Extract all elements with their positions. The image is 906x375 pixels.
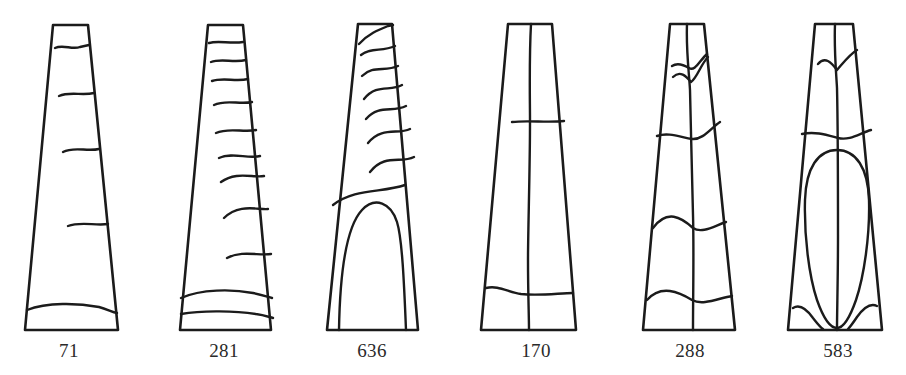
artifact-71-band-4 — [68, 224, 108, 226]
artifact-636-band-3 — [362, 66, 398, 76]
artifact-636-arch — [339, 203, 406, 330]
artifact-label-281: 281 — [209, 340, 239, 362]
artifact-636-band-8 — [333, 185, 405, 205]
artifact-281-band-3 — [212, 79, 248, 81]
artifact-288-band-4 — [653, 217, 726, 231]
artifact-281-band-6 — [219, 155, 260, 158]
artifact-281-drawing — [180, 25, 273, 330]
artifact-170-drawing — [481, 24, 576, 330]
artifact-label-170: 170 — [521, 340, 551, 362]
artifact-281-band-11 — [181, 311, 273, 318]
artifact-label-636: 636 — [357, 340, 387, 362]
artifact-288-band-3 — [657, 122, 720, 139]
artifact-583-band-3 — [793, 306, 823, 329]
figure-plate: 71 281 636 170 288 583 — [0, 0, 906, 375]
artifact-636-band-1 — [359, 25, 393, 44]
artifact-636-band-7 — [370, 157, 414, 172]
artifact-71-band-3 — [63, 149, 99, 152]
artifact-71-outline — [25, 25, 118, 330]
artifact-71-band-1 — [55, 45, 89, 48]
artifact-636-band-4 — [364, 85, 402, 99]
artifact-label-71: 71 — [59, 340, 79, 362]
artifact-label-288: 288 — [675, 340, 705, 362]
artifact-583-band-1 — [818, 50, 857, 70]
artifact-281-band-1 — [209, 42, 243, 43]
artifact-636-drawing — [327, 24, 418, 330]
artifact-label-583: 583 — [823, 340, 853, 362]
artifact-288-band-5 — [647, 291, 732, 302]
artifact-170-band-lower — [486, 287, 573, 294]
artifact-71-band-2 — [59, 93, 94, 96]
artifact-71-band-5 — [27, 304, 117, 313]
artifact-281-band-5 — [216, 130, 256, 133]
artifact-170-center-line — [528, 24, 531, 330]
artifact-636-band-2 — [361, 46, 395, 55]
artifact-281-band-10 — [181, 290, 272, 298]
artifact-71-drawing — [25, 25, 118, 330]
artifact-281-band-4 — [214, 102, 252, 105]
artifact-583-drawing — [788, 24, 882, 330]
artifact-281-band-2 — [211, 60, 246, 62]
artifact-288-drawing — [643, 24, 735, 330]
artifact-drawings-svg — [0, 0, 906, 375]
artifact-170-band-upper — [512, 121, 564, 122]
artifact-636-band-6 — [368, 129, 410, 143]
